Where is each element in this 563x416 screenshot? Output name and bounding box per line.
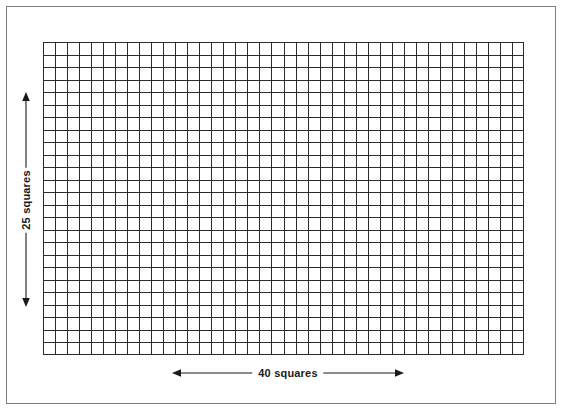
vertical-measure-annotation: 25 squares <box>12 92 40 307</box>
horizontal-measure-annotation: 40 squares <box>172 362 404 384</box>
horizontal-measure-label: 40 squares <box>252 367 323 379</box>
squares-grid <box>43 42 524 355</box>
squares-grid-svg <box>43 42 524 355</box>
vertical-measure-label: 25 squares <box>20 167 32 232</box>
grid-diagram-figure: 25 squares 40 squares <box>0 0 563 416</box>
